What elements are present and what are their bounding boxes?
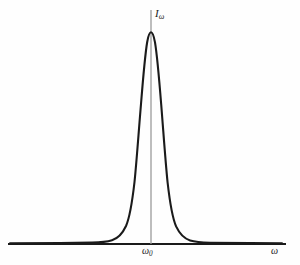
plot-canvas bbox=[0, 0, 300, 265]
y-axis-intensity-subscript: ω bbox=[159, 12, 165, 21]
x-axis-omega-symbol: ω bbox=[271, 245, 278, 256]
y-axis-intensity-label: Iω bbox=[155, 8, 164, 21]
x-axis-omega-label: ω bbox=[271, 246, 278, 256]
spectral-line-curve bbox=[10, 32, 282, 243]
x-tick-label-omega-zero: ω0 bbox=[142, 246, 153, 258]
spectral-line-figure: Iω ω0 ω bbox=[0, 0, 300, 265]
omega-zero-symbol: ω bbox=[142, 245, 149, 256]
omega-zero-subscript: 0 bbox=[149, 250, 153, 258]
